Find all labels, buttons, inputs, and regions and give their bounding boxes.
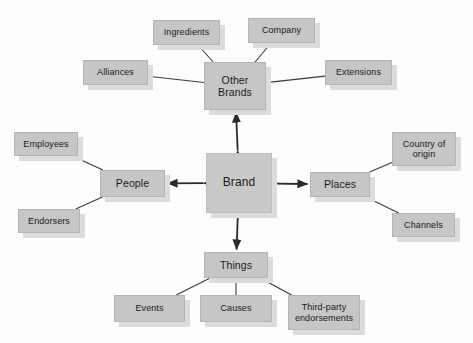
node-label-channels: Channels (401, 220, 446, 230)
node-label-company: Company (259, 25, 304, 35)
node-third-party-endorsements[interactable]: Third-party endorsements (288, 295, 360, 330)
connector-extensions-other-brands (266, 76, 325, 82)
connector-events-things (176, 278, 210, 295)
arrow-brand-other-brands (236, 112, 238, 150)
node-label-causes: Causes (217, 303, 254, 313)
node-label-ingredients: Ingredients (161, 27, 213, 37)
connector-endorsers-people (76, 197, 103, 209)
node-label-third-party-endorsements: Third-party endorsements (292, 302, 356, 323)
node-label-brand: Brand (220, 176, 259, 190)
node-label-people: People (113, 177, 152, 189)
node-label-other-brands: Other Brands (215, 74, 255, 98)
node-alliances[interactable]: Alliances (83, 60, 148, 85)
node-label-extensions: Extensions (333, 67, 384, 77)
arrow-brand-things (237, 215, 238, 249)
node-employees[interactable]: Employees (14, 132, 78, 156)
node-things[interactable]: Things (204, 252, 268, 278)
node-people[interactable]: People (100, 170, 165, 197)
node-country-of-origin[interactable]: Country of origin (392, 132, 456, 166)
node-other-brands[interactable]: Other Brands (204, 62, 266, 110)
node-label-places: Places (321, 178, 359, 190)
node-label-alliances: Alliances (94, 67, 137, 77)
node-causes[interactable]: Causes (200, 295, 272, 322)
node-label-events: Events (132, 303, 166, 313)
node-company[interactable]: Company (248, 18, 315, 43)
node-brand[interactable]: Brand (206, 153, 272, 213)
connector-country-of-origin-places (370, 163, 392, 172)
diagram-canvas: BrandOther BrandsPeoplePlacesThingsIngre… (0, 0, 473, 343)
node-events[interactable]: Events (114, 295, 185, 322)
node-endorsers[interactable]: Endorsers (18, 209, 80, 233)
node-extensions[interactable]: Extensions (325, 60, 392, 85)
node-places[interactable]: Places (310, 172, 370, 197)
connector-alliances-other-brands (148, 76, 204, 82)
node-label-employees: Employees (20, 139, 71, 149)
node-ingredients[interactable]: Ingredients (153, 20, 220, 45)
node-label-endorsers: Endorsers (25, 216, 73, 226)
node-label-country-of-origin: Country of origin (400, 139, 449, 160)
node-channels[interactable]: Channels (392, 213, 455, 237)
node-label-things: Things (217, 259, 255, 271)
